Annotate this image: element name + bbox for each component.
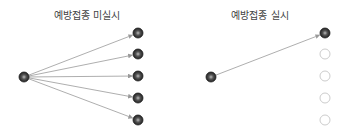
left-target-node-infected: [133, 49, 143, 59]
right-target-node-uninfected: [320, 71, 330, 81]
left-source-node: [19, 72, 29, 82]
right-target-node-infected: [320, 28, 330, 38]
left-edge-arrow: [29, 79, 133, 118]
left-target-node-infected: [133, 93, 143, 103]
right-target-node-uninfected: [320, 49, 330, 59]
left-edge-arrow: [29, 55, 132, 76]
right-source-node: [206, 72, 216, 82]
left-edge-arrow: [29, 76, 132, 77]
left-target-node-infected: [133, 71, 143, 81]
right-target-node-uninfected: [320, 115, 330, 125]
left-edge-arrow: [29, 35, 133, 75]
transmission-diagram: [0, 0, 347, 139]
right-edge-arrow: [216, 35, 320, 75]
left-edge-arrow: [29, 78, 132, 97]
left-target-node-infected: [133, 115, 143, 125]
right-target-node-uninfected: [320, 93, 330, 103]
left-target-node-infected: [133, 28, 143, 38]
